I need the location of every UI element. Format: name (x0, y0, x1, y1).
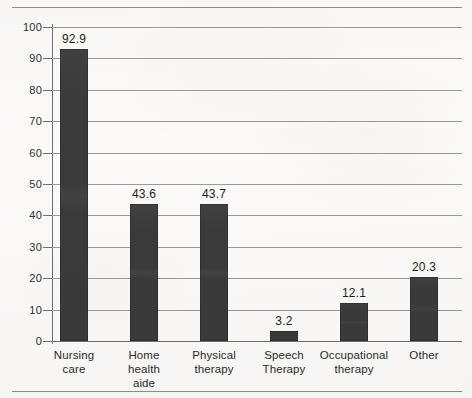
bar (410, 277, 438, 341)
gridline (52, 341, 462, 342)
gridline (52, 58, 462, 59)
bar-value-label: 92.9 (44, 32, 104, 46)
y-axis-tick-label: 50 (29, 178, 42, 190)
y-axis-tick-label: 40 (29, 209, 42, 221)
y-axis-tick (43, 310, 52, 311)
y-axis-tick (43, 90, 52, 91)
y-axis-tick (43, 184, 52, 185)
gridline (52, 27, 462, 28)
page-bottom-rule (12, 391, 462, 392)
y-axis-tick-label: 100 (23, 21, 42, 33)
y-axis-tick (43, 278, 52, 279)
bar-value-label: 20.3 (394, 260, 454, 274)
y-axis-tick-label: 0 (36, 335, 42, 347)
page-top-rule (12, 7, 462, 8)
y-axis-tick (43, 215, 52, 216)
y-axis-tick-label: 30 (29, 241, 42, 253)
bar-value-label: 43.6 (114, 187, 174, 201)
y-axis-tick (43, 58, 52, 59)
y-axis-tick-label: 10 (29, 304, 42, 316)
gridline (52, 90, 462, 91)
bar (340, 303, 368, 341)
gridline (52, 247, 462, 248)
y-axis-tick (43, 27, 52, 28)
y-axis-tick-label: 90 (29, 52, 42, 64)
y-axis-tick (43, 341, 52, 342)
x-axis-category-label: Other (382, 348, 466, 362)
y-axis-tick-labels: 0102030405060708090100 (8, 27, 42, 341)
y-axis-tick-label: 80 (29, 84, 42, 96)
gridline (52, 184, 462, 185)
chart-page: 0102030405060708090100 92.9Nursing care4… (0, 0, 472, 398)
bar-value-label: 12.1 (324, 286, 384, 300)
gridline (52, 153, 462, 154)
bar (60, 49, 88, 341)
bar (130, 204, 158, 341)
y-axis-tick (43, 121, 52, 122)
y-axis-tick (43, 153, 52, 154)
y-axis-tick-label: 70 (29, 115, 42, 127)
y-axis-tick (43, 247, 52, 248)
y-axis-tick-label: 20 (29, 272, 42, 284)
y-axis-tick-label: 60 (29, 147, 42, 159)
bar-value-label: 43.7 (184, 187, 244, 201)
bar (200, 204, 228, 341)
plot-area: 92.9Nursing care43.6Home health aide43.7… (52, 27, 462, 341)
bar-value-label: 3.2 (254, 314, 314, 328)
gridline (52, 310, 462, 311)
gridline (52, 121, 462, 122)
gridline (52, 278, 462, 279)
gridline (52, 215, 462, 216)
bar (270, 331, 298, 341)
